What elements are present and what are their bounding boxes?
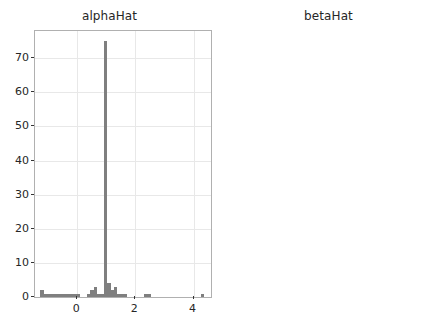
plot-area-alphahat (34, 30, 212, 298)
y-axis-tick-mark (31, 160, 34, 161)
y-axis-tick-label: 30 (6, 187, 29, 200)
y-axis-tick-label: 70 (6, 51, 29, 64)
y-axis-tick-mark (31, 91, 34, 92)
x-axis-tick-mark (76, 296, 77, 299)
gridline-horizontal (35, 161, 211, 162)
y-axis-tick-mark (31, 194, 34, 195)
gridline-vertical (135, 31, 136, 297)
y-axis-tick-label: 20 (6, 221, 29, 234)
x-axis-tick-label: 2 (131, 302, 138, 315)
y-axis-tick-mark (31, 57, 34, 58)
x-axis-tick-label: 4 (189, 302, 196, 315)
y-axis-tick-label: 50 (6, 119, 29, 132)
gridline-horizontal (35, 126, 211, 127)
panel-title-betahat: betaHat (219, 9, 438, 23)
gridline-vertical (194, 31, 195, 297)
y-axis-tick-label: 0 (6, 290, 29, 303)
histogram-bar (201, 294, 204, 297)
panel-betahat: betaHat 010203040506070−5.0−2.50.02.5 (219, 0, 438, 328)
panel-title-alphahat: alphaHat (0, 9, 219, 23)
gridline-horizontal (35, 263, 211, 264)
histogram-bar (124, 294, 127, 297)
y-axis-tick-mark (31, 228, 34, 229)
y-axis-tick-label: 10 (6, 255, 29, 268)
gridline-horizontal (35, 297, 211, 298)
gridline-horizontal (35, 58, 211, 59)
histogram-bar (104, 41, 107, 297)
histogram-figure: alphaHat 010203040506070024 betaHat 0102… (0, 0, 438, 328)
y-axis-tick-mark (31, 125, 34, 126)
panel-alphahat: alphaHat 010203040506070024 (0, 0, 219, 328)
y-axis-tick-mark (31, 262, 34, 263)
x-axis-tick-mark (193, 296, 194, 299)
x-axis-tick-mark (134, 296, 135, 299)
y-axis-tick-label: 60 (6, 85, 29, 98)
gridline-horizontal (35, 92, 211, 93)
x-axis-tick-label: 0 (73, 302, 80, 315)
gridline-horizontal (35, 229, 211, 230)
gridline-horizontal (35, 195, 211, 196)
y-axis-tick-mark (31, 296, 34, 297)
gridline-vertical (77, 31, 78, 297)
histogram-bar (77, 294, 80, 297)
histogram-bar (147, 294, 150, 297)
y-axis-tick-label: 40 (6, 153, 29, 166)
